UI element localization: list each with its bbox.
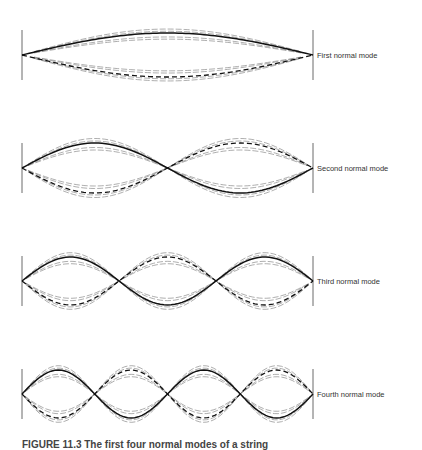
intermediate-position — [26, 255, 309, 307]
mode-2 — [22, 139, 313, 198]
mode-label-4: Fourth normal mode — [317, 390, 385, 399]
intermediate-position — [26, 255, 309, 307]
mode-1 — [22, 29, 313, 81]
intermediate-position — [34, 58, 301, 79]
intermediate-position — [34, 37, 301, 53]
mode-label-3: Third normal mode — [317, 277, 380, 286]
intermediate-position — [34, 57, 301, 73]
intermediate-position — [26, 261, 309, 300]
dashed-extreme — [22, 143, 313, 193]
intermediate-position — [26, 264, 309, 299]
figure-caption: FIGURE 11.3 The first four normal modes … — [22, 439, 268, 450]
intermediate-position — [34, 31, 301, 52]
mode-label-1: First normal mode — [317, 51, 377, 60]
intermediate-position — [26, 264, 309, 299]
mode-3 — [22, 253, 313, 310]
intermediate-position — [26, 261, 309, 300]
mode-4 — [22, 366, 313, 423]
dashed-extreme — [22, 370, 313, 418]
mode-label-2: Second normal mode — [317, 164, 388, 173]
